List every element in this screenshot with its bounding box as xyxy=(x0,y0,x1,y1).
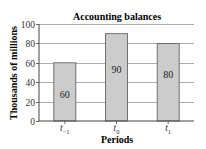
x-axis-label: Periods xyxy=(101,134,133,145)
x-tick-label: t0 xyxy=(114,123,120,135)
x-axis-ticks: t−1t0t1 xyxy=(60,121,171,135)
x-tick-label: t1 xyxy=(165,123,171,135)
bar-value-label: 80 xyxy=(163,69,173,80)
y-tick-label: 60 xyxy=(26,59,36,69)
y-tick-label: 100 xyxy=(21,20,36,30)
bar-chart: Accounting balances 020406080100 609080 … xyxy=(0,0,206,149)
bar xyxy=(106,34,128,121)
chart-title: Accounting balances xyxy=(73,11,161,22)
bar-value-label: 60 xyxy=(60,89,70,100)
bar-value-label: 90 xyxy=(112,64,122,75)
x-tick-label: t−1 xyxy=(60,123,70,135)
y-axis-label: Thousands of millions xyxy=(8,26,19,120)
bar xyxy=(157,43,179,121)
y-tick-label: 80 xyxy=(26,39,36,49)
y-tick-label: 40 xyxy=(26,78,36,88)
bars: 609080 xyxy=(54,34,179,121)
y-axis-ticks: 020406080100 xyxy=(21,20,39,127)
y-tick-label: 20 xyxy=(26,98,36,108)
y-tick-label: 0 xyxy=(30,117,35,127)
